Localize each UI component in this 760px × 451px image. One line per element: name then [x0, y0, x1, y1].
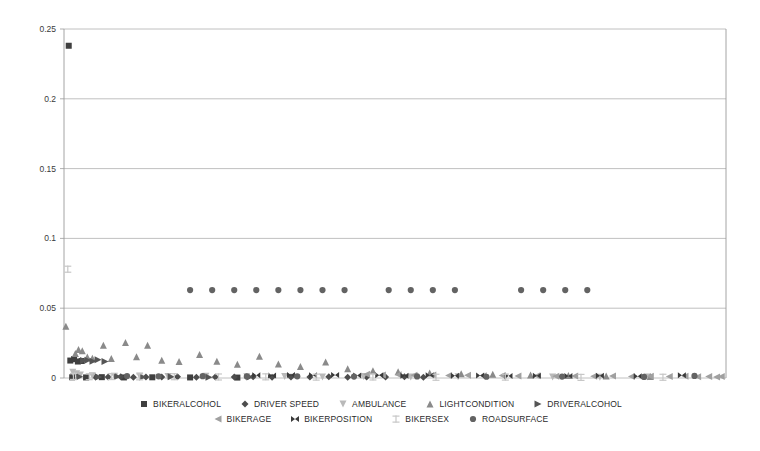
legend-label: ROADSURFACE: [482, 414, 548, 424]
data-point: [206, 374, 213, 381]
legend-label: BIKERPOSITION: [304, 414, 372, 424]
data-point: [414, 373, 420, 379]
data-point: [95, 356, 102, 363]
data-point: [158, 357, 165, 364]
legend-label: DRIVERALCOHOL: [547, 399, 622, 409]
data-point: [209, 287, 215, 293]
data-point: [253, 287, 259, 293]
ibeam-marker-icon: [390, 413, 402, 425]
data-point: [322, 358, 329, 365]
square-marker-icon: [138, 398, 150, 410]
data-point: [319, 287, 325, 293]
data-point: [577, 374, 584, 381]
data-point: [100, 342, 107, 349]
data-point: [331, 372, 339, 378]
series-bikersex: [64, 266, 666, 381]
data-point: [213, 358, 220, 365]
data-point: [275, 287, 281, 293]
legend-item-bikersex[interactable]: BIKERSEX: [390, 413, 449, 425]
data-point: [66, 43, 72, 49]
series-bikeralcohol: [66, 43, 241, 381]
data-point: [341, 287, 347, 293]
data-point: [275, 361, 282, 368]
legend-item-bikerage[interactable]: BIKERAGE: [212, 413, 272, 425]
legend-label: BIKERAGE: [227, 414, 272, 424]
data-point: [193, 374, 200, 381]
data-point: [122, 339, 129, 346]
data-point: [584, 287, 590, 293]
data-point: [64, 266, 71, 273]
y-tick-label: 0.25: [39, 24, 56, 34]
data-point: [297, 363, 304, 370]
circle-marker-icon: [467, 413, 479, 425]
triangle-up-marker-icon: [424, 398, 436, 410]
legend-label: BIKERALCOHOL: [153, 399, 221, 409]
data-point: [133, 353, 140, 360]
data-point: [476, 372, 484, 378]
data-point: [149, 374, 155, 380]
data-point: [489, 371, 496, 378]
plot-area: 00.050.10.150.20.25: [0, 0, 760, 451]
legend-item-bikeralcohol[interactable]: BIKERALCOHOL: [138, 398, 221, 410]
data-point: [234, 361, 241, 368]
data-point: [124, 373, 130, 379]
legend-label: DRIVER SPEED: [254, 399, 319, 409]
data-point: [244, 373, 250, 379]
data-point: [294, 373, 300, 379]
data-point: [641, 374, 647, 380]
data-point: [297, 287, 303, 293]
data-point: [562, 287, 568, 293]
data-point: [666, 373, 673, 380]
legend-item-driver-speed[interactable]: DRIVER SPEED: [239, 398, 319, 410]
data-point: [559, 374, 565, 380]
y-tick-label: 0.05: [39, 303, 56, 313]
data-point: [609, 373, 616, 380]
legend-item-roadsurface[interactable]: ROADSURFACE: [467, 413, 548, 425]
data-point: [155, 373, 161, 379]
data-point: [375, 372, 383, 378]
data-point: [483, 374, 489, 380]
data-point: [196, 351, 203, 358]
data-point: [705, 373, 712, 380]
legend-row-1: BIKERALCOHOLDRIVER SPEEDAMBULANCELIGHTCO…: [129, 398, 631, 410]
legend-item-driveralcohol[interactable]: DRIVERALCOHOL: [532, 398, 622, 410]
series-roadsurface: [124, 287, 698, 380]
data-point: [351, 374, 357, 380]
triangle-left-marker-icon: [212, 413, 224, 425]
data-point: [430, 287, 436, 293]
data-point: [344, 365, 351, 372]
data-point: [408, 287, 414, 293]
data-point: [200, 373, 206, 379]
data-point: [691, 373, 697, 379]
data-point: [187, 287, 193, 293]
legend-label: BIKERSEX: [405, 414, 449, 424]
y-tick-label: 0.2: [44, 94, 56, 104]
data-point: [386, 287, 392, 293]
data-point: [187, 374, 193, 380]
legend-label: AMBULANCE: [352, 399, 406, 409]
legend-item-ambulance[interactable]: AMBULANCE: [337, 398, 406, 410]
data-point: [231, 287, 237, 293]
data-point: [130, 374, 137, 381]
data-point: [452, 287, 458, 293]
y-tick-label: 0: [51, 373, 56, 383]
legend-row-2: BIKERAGEBIKERPOSITIONBIKERSEXROADSURFACE: [203, 413, 558, 425]
y-tick-label: 0.1: [44, 233, 56, 243]
diamond-marker-icon: [239, 398, 251, 410]
data-point: [319, 373, 326, 380]
legend-label: LIGHTCONDITION: [439, 399, 514, 409]
data-point: [313, 374, 320, 381]
data-point: [659, 374, 666, 381]
data-point: [344, 374, 351, 381]
data-point: [176, 358, 183, 365]
legend-item-bikerposition[interactable]: BIKERPOSITION: [289, 413, 372, 425]
data-point: [101, 358, 108, 365]
y-tick-label: 0.15: [39, 164, 56, 174]
data-point: [108, 355, 115, 362]
data-point: [540, 287, 546, 293]
legend-item-lightcondition[interactable]: LIGHTCONDITION: [424, 398, 514, 410]
data-point: [144, 342, 151, 349]
series-lightcondition: [62, 323, 653, 380]
data-point: [256, 353, 263, 360]
bowtie-marker-icon: [289, 413, 301, 425]
